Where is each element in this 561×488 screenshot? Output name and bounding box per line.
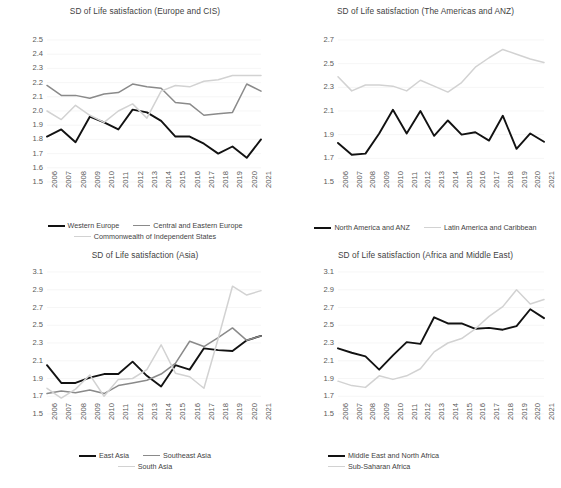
y-tick-label: 1.7 <box>304 391 334 400</box>
panel-europe-cis: SD of Life satisfaction (Europe and CIS)… <box>0 0 290 244</box>
legend-row: Commonwealth of Independent States <box>0 231 290 242</box>
x-tick-label: 2006 <box>50 403 59 420</box>
y-tick-label: 1.5 <box>304 409 334 418</box>
figure-page: { "figure": { "background": "#ffffff", "… <box>0 0 561 488</box>
y-tick-label: 2.4 <box>13 49 43 58</box>
x-tick-label: 2010 <box>107 403 116 420</box>
y-tick-label: 1.9 <box>13 374 43 383</box>
x-tick-label: 2018 <box>221 171 230 188</box>
x-tick-label: 2007 <box>355 171 364 188</box>
legend-item[interactable]: North America and ANZ <box>314 222 410 233</box>
legend-row: East AsiaSoutheast Asia <box>0 450 290 461</box>
x-tick-label: 2006 <box>341 171 350 188</box>
x-tick-label: 2014 <box>164 171 173 188</box>
x-tick-label: 2020 <box>250 403 259 420</box>
legend-swatch-icon <box>48 225 65 227</box>
legend-label: North America and ANZ <box>334 222 410 233</box>
x-tick-label: 2014 <box>164 403 173 420</box>
series-line <box>338 49 544 92</box>
y-tick-label: 1.7 <box>13 149 43 158</box>
legend-item[interactable]: Sub-Saharan Africa <box>328 461 410 472</box>
x-tick-label: 2021 <box>264 171 273 188</box>
x-tick-label: 2018 <box>506 403 515 420</box>
legend-label: Central and Eastern Europe <box>153 220 242 231</box>
y-tick-label: 2.3 <box>13 63 43 72</box>
y-tick-label: 3.1 <box>304 267 334 276</box>
x-tick-label: 2017 <box>207 171 216 188</box>
x-tick-label: 2021 <box>547 403 556 420</box>
plot-americas-anz: 2.72.52.32.11.91.71.52006200720082009201… <box>290 0 561 244</box>
y-tick-label: 2.5 <box>304 59 334 68</box>
legend-item[interactable]: Western Europe <box>48 220 120 231</box>
series-line <box>47 336 261 387</box>
chart-svg-europe-cis <box>0 0 290 244</box>
legend-item[interactable]: Central and Eastern Europe <box>133 220 242 231</box>
x-tick-label: 2009 <box>93 171 102 188</box>
legend-swatch-icon <box>328 455 345 457</box>
x-tick-label: 2014 <box>451 171 460 188</box>
y-tick-label: 2.5 <box>13 35 43 44</box>
legend-europe-cis: Western EuropeCentral and Eastern Europe… <box>0 220 290 242</box>
panel-americas-anz: SD of Life satisfaction (The Americas an… <box>290 0 561 244</box>
x-tick-label: 2017 <box>492 403 501 420</box>
panel-africa-middle-east: SD of Life satisfaction (Africa and Midd… <box>290 244 561 488</box>
legend-item[interactable]: Commonwealth of Independent States <box>74 231 216 242</box>
x-tick-label: 2020 <box>250 171 259 188</box>
y-tick-label: 2.1 <box>304 356 334 365</box>
x-tick-label: 2010 <box>396 171 405 188</box>
x-tick-label: 2007 <box>64 403 73 420</box>
legend-row: South Asia <box>0 461 290 472</box>
x-tick-label: 2020 <box>533 403 542 420</box>
y-tick-label: 1.5 <box>13 409 43 418</box>
x-tick-label: 2013 <box>437 403 446 420</box>
x-tick-label: 2019 <box>235 171 244 188</box>
y-tick-label: 2.7 <box>304 35 334 44</box>
y-tick-label: 1.7 <box>13 391 43 400</box>
x-tick-label: 2013 <box>150 403 159 420</box>
legend-item[interactable]: Latin America and Caribbean <box>424 222 537 233</box>
legend-label: Southeast Asia <box>163 450 211 461</box>
y-tick-label: 1.9 <box>304 130 334 139</box>
x-tick-label: 2019 <box>520 403 529 420</box>
legend-item[interactable]: Southeast Asia <box>143 450 211 461</box>
x-tick-label: 2008 <box>79 403 88 420</box>
legend-item[interactable]: South Asia <box>118 461 172 472</box>
x-tick-label: 2021 <box>264 403 273 420</box>
x-tick-label: 2008 <box>79 171 88 188</box>
x-tick-label: 2012 <box>423 171 432 188</box>
x-tick-label: 2011 <box>410 404 419 420</box>
x-tick-label: 2014 <box>451 403 460 420</box>
y-tick-label: 1.9 <box>304 374 334 383</box>
legend-swatch-icon <box>74 236 91 237</box>
x-tick-label: 2006 <box>341 403 350 420</box>
y-tick-label: 2.5 <box>304 320 334 329</box>
legend-row: North America and ANZLatin America and C… <box>290 222 561 233</box>
legend-label: Western Europe <box>68 220 120 231</box>
y-tick-label: 2.1 <box>13 356 43 365</box>
y-tick-label: 2.1 <box>304 106 334 115</box>
y-tick-label: 1.6 <box>13 163 43 172</box>
legend-swatch-icon <box>328 466 345 467</box>
x-tick-label: 2017 <box>207 403 216 420</box>
legend-label: East Asia <box>99 450 129 461</box>
x-tick-label: 2008 <box>368 403 377 420</box>
x-tick-label: 2018 <box>506 171 515 188</box>
x-tick-label: 2015 <box>465 171 474 188</box>
y-tick-label: 2.5 <box>13 320 43 329</box>
legend-label: Sub-Saharan Africa <box>348 461 410 472</box>
y-tick-label: 2.7 <box>13 303 43 312</box>
legend-swatch-icon <box>143 455 160 456</box>
y-tick-label: 2.7 <box>304 303 334 312</box>
legend-swatch-icon <box>314 227 331 229</box>
y-tick-label: 2.9 <box>13 285 43 294</box>
x-tick-label: 2020 <box>533 171 542 188</box>
legend-item[interactable]: East Asia <box>79 450 129 461</box>
x-tick-label: 2011 <box>121 404 130 420</box>
y-tick-label: 2.3 <box>304 338 334 347</box>
x-tick-label: 2016 <box>478 403 487 420</box>
panel-asia: SD of Life satisfaction (Asia) 3.12.92.7… <box>0 244 290 488</box>
x-tick-label: 2008 <box>368 171 377 188</box>
legend-item[interactable]: Middle East and North Africa <box>328 450 439 461</box>
legend-label: Latin America and Caribbean <box>444 222 537 233</box>
y-tick-label: 2.3 <box>304 82 334 91</box>
